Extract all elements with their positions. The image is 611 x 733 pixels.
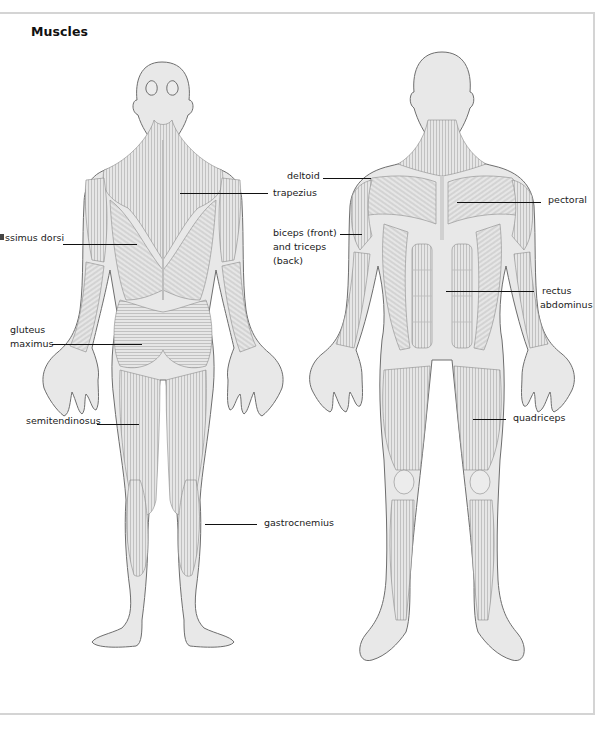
label-gastrocnemius: gastrocnemius xyxy=(264,516,334,529)
label-and-triceps: and triceps xyxy=(273,240,326,253)
back-view-figure xyxy=(43,62,283,647)
gluteus-maximus-leader xyxy=(52,344,142,345)
bullet-marker xyxy=(0,234,4,240)
semitendinosus-leader xyxy=(97,424,139,425)
trapezius-leader xyxy=(180,193,268,194)
label-maximus: maximus xyxy=(10,337,54,350)
label-back: (back) xyxy=(273,254,303,267)
rectus-abdominus-leader xyxy=(446,291,534,292)
pectoral-leader xyxy=(457,202,541,203)
biceps-leader xyxy=(340,234,362,235)
label-latissimus-dorsi: ssimus dorsi xyxy=(5,231,64,244)
gastrocnemius-leader xyxy=(205,524,257,525)
deltoid-leader xyxy=(323,178,371,179)
label-deltoid: deltoid xyxy=(287,169,320,182)
label-rectus: rectus xyxy=(542,284,571,297)
label-pectoral: pectoral xyxy=(548,193,587,206)
label-trapezius: trapezius xyxy=(273,186,317,199)
label-semitendinosus: semitendinosus xyxy=(26,414,101,427)
label-biceps-front: biceps (front) xyxy=(273,226,337,239)
label-gluteus: gluteus xyxy=(10,323,45,336)
quadriceps-leader xyxy=(473,419,506,420)
latissimus-dorsi-leader xyxy=(63,244,137,245)
muscle-figures xyxy=(0,0,611,733)
label-quadriceps: quadriceps xyxy=(513,411,566,424)
label-abdominus: abdominus xyxy=(540,298,593,311)
front-view-figure xyxy=(310,52,575,661)
